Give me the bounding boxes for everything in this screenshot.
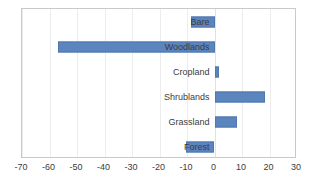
- category-label-grassland: Grassland: [168, 117, 212, 126]
- x-tick-label: 0: [211, 163, 216, 172]
- x-tick-label: -70: [14, 163, 27, 172]
- x-tick-label: -20: [152, 163, 165, 172]
- x-tick-label: -40: [97, 163, 110, 172]
- x-tick-label: -50: [69, 163, 82, 172]
- bar-row: Cropland: [22, 59, 295, 84]
- bar-cropland: [215, 66, 219, 77]
- bar-row: Grassland: [22, 109, 295, 134]
- bar-chart: BareWoodlandsCroplandShrublandsGrassland…: [0, 0, 312, 184]
- category-label-woodlands: Woodlands: [165, 42, 213, 51]
- bar-row: Bare: [22, 9, 295, 34]
- x-tick-label: -60: [42, 163, 55, 172]
- category-label-shrublands: Shrublands: [164, 92, 213, 101]
- plot-area: BareWoodlandsCroplandShrublandsGrassland…: [21, 8, 296, 158]
- x-tick-label: -30: [124, 163, 137, 172]
- category-label-bare: Bare: [190, 17, 212, 26]
- bar-row: Shrublands: [22, 84, 295, 109]
- x-tick-label: -10: [179, 163, 192, 172]
- x-tick-label: 20: [263, 163, 273, 172]
- bar-grassland: [215, 116, 238, 127]
- x-axis: -70-60-50-40-30-20-100102030: [21, 159, 296, 181]
- category-label-forest: Forest: [184, 142, 213, 151]
- x-tick-label: 30: [291, 163, 301, 172]
- bar-row: Forest: [22, 134, 295, 158]
- x-tick-label: 10: [236, 163, 246, 172]
- category-label-cropland: Cropland: [173, 67, 213, 76]
- bar-row: Woodlands: [22, 34, 295, 59]
- bar-shrublands: [215, 91, 266, 102]
